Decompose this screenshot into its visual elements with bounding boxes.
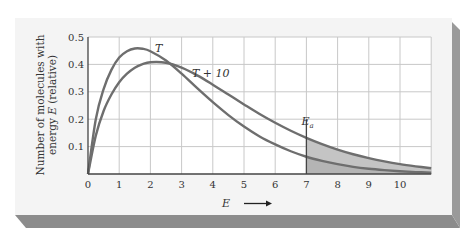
label-T-plus-10: T + 10 — [192, 67, 230, 80]
x-tick-label: 10 — [394, 179, 407, 190]
x-tick-label: 7 — [303, 179, 309, 190]
x-tick-label: 5 — [241, 179, 247, 190]
x-tick-label: 6 — [272, 179, 278, 190]
chart-figure: 0123456789100.10.20.30.40.5ENumber of mo… — [0, 0, 473, 241]
x-tick-label: 1 — [116, 179, 122, 190]
y-tick-label: 0.3 — [68, 86, 84, 97]
y-tick-label: 0.5 — [68, 32, 84, 43]
x-tick-label: 9 — [366, 179, 372, 190]
plot-area — [88, 37, 431, 174]
y-axis-label: Number of molecules withenergy E (relati… — [34, 34, 58, 175]
x-tick-label: 3 — [178, 179, 184, 190]
x-axis-label: E — [221, 197, 230, 210]
y-tick-label: 0.2 — [68, 114, 84, 125]
chart-svg: 0123456789100.10.20.30.40.5ENumber of mo… — [0, 0, 473, 241]
x-tick-label: 4 — [210, 179, 216, 190]
card-shadow-bottom — [15, 215, 460, 228]
card-shadow-right — [452, 22, 460, 228]
y-tick-label: 0.1 — [68, 141, 84, 152]
x-tick-label: 0 — [85, 179, 91, 190]
x-tick-label: 8 — [334, 179, 340, 190]
y-tick-label: 0.4 — [68, 59, 84, 70]
x-tick-label: 2 — [147, 179, 153, 190]
